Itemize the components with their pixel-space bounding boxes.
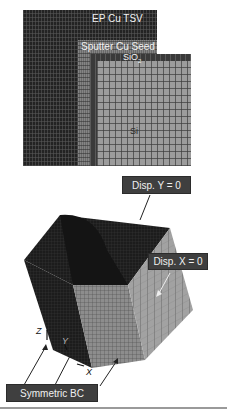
axis-y-label: Y	[62, 336, 68, 346]
cross-section-mesh: EP Cu TSV Sputter Cu Seed SiO2 Si	[23, 10, 191, 166]
label-ep-cu-tsv: EP Cu TSV	[92, 13, 143, 24]
label-sio2: SiO2	[123, 52, 141, 64]
label-sio2-subscript: 2	[138, 58, 141, 64]
leader-symbc-2	[55, 356, 70, 385]
sio2-layer-vertical	[90, 61, 97, 166]
label-sio2-text: SiO	[123, 52, 138, 62]
label-si: Si	[130, 126, 138, 136]
callout-symmetric-bc: Symmetric BC	[6, 384, 98, 402]
leader-disp-y	[140, 195, 150, 220]
callout-disp-x: Disp. X = 0	[148, 253, 208, 270]
label-sputter-cu-seed: Sputter Cu Seed	[81, 41, 155, 52]
silicon-region	[97, 61, 191, 166]
model-3d	[0, 190, 227, 405]
leader-symbc-1	[24, 348, 45, 385]
axis-x-label: X	[86, 367, 92, 377]
bottom-divider	[0, 407, 227, 409]
cu-seed-layer-vertical	[78, 54, 90, 166]
axis-z-label: Z	[36, 326, 42, 336]
